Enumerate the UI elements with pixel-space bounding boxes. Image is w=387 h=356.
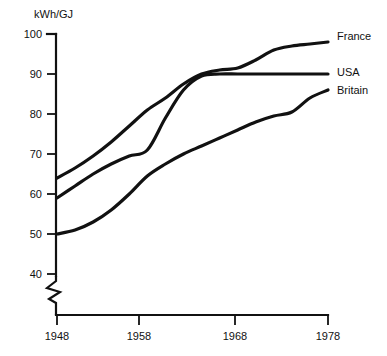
y-tick-label-50: 50 — [30, 228, 42, 240]
line-chart-svg: kWh/GJ 100 90 80 70 60 50 40 — [0, 0, 387, 356]
chart-canvas: kWh/GJ 100 90 80 70 60 50 40 — [0, 0, 387, 356]
x-axis-ticks — [57, 315, 328, 325]
series-line-france — [57, 42, 328, 178]
x-tick-label-1958: 1958 — [127, 330, 151, 342]
y-axis-title: kWh/GJ — [34, 8, 73, 20]
series-line-usa — [57, 74, 328, 198]
series-label-usa: USA — [337, 66, 360, 78]
series-label-france: France — [337, 30, 371, 42]
y-axis-ticks — [47, 74, 56, 274]
x-tick-label-1978: 1978 — [316, 330, 340, 342]
y-tick-label-70: 70 — [30, 148, 42, 160]
y-axis-break-symbol — [47, 276, 60, 315]
y-tick-label-90: 90 — [30, 68, 42, 80]
y-axis-tick-labels: 100 90 80 70 60 50 40 — [24, 28, 42, 280]
y-tick-label-80: 80 — [30, 108, 42, 120]
x-tick-label-1968: 1968 — [223, 330, 247, 342]
y-tick-label-60: 60 — [30, 188, 42, 200]
x-tick-label-1948: 1948 — [45, 330, 69, 342]
y-tick-label-100: 100 — [24, 28, 42, 40]
series-line-britain — [57, 90, 328, 234]
series-label-britain: Britain — [337, 84, 368, 96]
x-axis-tick-labels: 1948 1958 1968 1978 — [45, 330, 340, 342]
y-tick-label-40: 40 — [30, 268, 42, 280]
